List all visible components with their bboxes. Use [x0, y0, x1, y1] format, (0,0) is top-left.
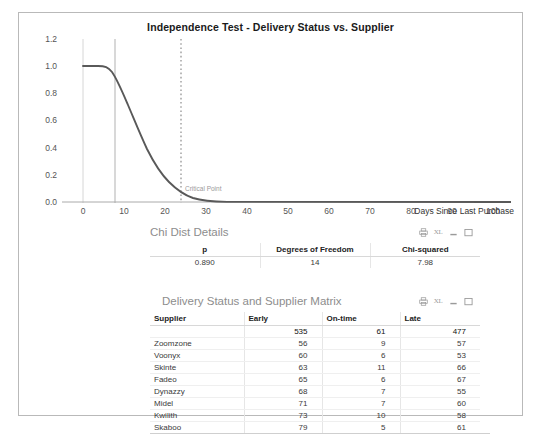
- chi-survival-curve: [83, 66, 511, 202]
- x-tick-30: 30: [201, 206, 210, 216]
- column-header-early[interactable]: Early: [244, 312, 322, 326]
- table-row: Fadeo 65 6 67: [150, 374, 480, 386]
- matrix-card-title: Delivery Status and Supplier Matrix: [162, 295, 342, 307]
- cell-total-ontime: 61: [322, 326, 400, 338]
- cell-ontime: 11: [322, 362, 400, 374]
- x-tick-60: 60: [324, 206, 333, 216]
- cell-ontime: 10: [322, 410, 400, 422]
- excel-icon[interactable]: XL: [433, 227, 443, 237]
- cell-early: 56: [244, 338, 322, 350]
- print-icon[interactable]: [418, 296, 428, 306]
- cell-early: 60: [244, 350, 322, 362]
- cell-late: 53: [400, 350, 480, 362]
- x-tick-10: 10: [119, 206, 128, 216]
- cell-late: 60: [400, 398, 480, 410]
- cell-late: 67: [400, 374, 480, 386]
- cell-p-value: 0.890: [150, 257, 260, 269]
- chi-dist-card-title: Chi Dist Details: [150, 226, 229, 238]
- cell-early: 73: [244, 410, 322, 422]
- column-header-p[interactable]: p: [150, 243, 260, 257]
- cell-total-early: 535: [244, 326, 322, 338]
- x-tick-40: 40: [242, 206, 251, 216]
- plot-svg: [62, 39, 511, 203]
- cell-ontime: 7: [322, 398, 400, 410]
- chi-distribution-chart: Independence Test - Delivery Status vs. …: [19, 13, 522, 219]
- maximize-icon[interactable]: [463, 296, 473, 306]
- cell-supplier: Voonyx: [150, 350, 244, 362]
- minimize-icon[interactable]: [448, 296, 458, 306]
- cell-ontime: 6: [322, 374, 400, 386]
- x-tick-20: 20: [160, 206, 169, 216]
- y-tick-0.4: 0.4: [45, 143, 57, 153]
- cell-early: 71: [244, 398, 322, 410]
- table-row: Dynazzy 68 7 55: [150, 386, 480, 398]
- x-tick-50: 50: [283, 206, 292, 216]
- cell-supplier: Kwilith: [150, 410, 244, 422]
- delivery-supplier-matrix-table: Supplier Early On-time Late 535 61 477 Z…: [150, 312, 480, 433]
- plot-area: 1.2 1.0 0.8 0.6 0.4 0.2 0.0 0 10 20 30 4…: [62, 39, 511, 203]
- y-tick-1.0: 1.0: [45, 61, 57, 71]
- cell-supplier: Skaboo: [150, 422, 244, 434]
- cell-supplier: Fadeo: [150, 374, 244, 386]
- cell-supplier: Midel: [150, 398, 244, 410]
- minimize-icon[interactable]: [448, 227, 458, 237]
- table-row: Skinte 63 11 66: [150, 362, 480, 374]
- y-tick-1.2: 1.2: [45, 34, 57, 44]
- cell-late: 57: [400, 338, 480, 350]
- column-header-chi-squared[interactable]: Chi-squared: [370, 243, 480, 257]
- cell-total-late: 477: [400, 326, 480, 338]
- x-axis-title: Days Since Last Purchase: [414, 206, 514, 216]
- maximize-icon[interactable]: [463, 227, 473, 237]
- cell-ontime: 9: [322, 338, 400, 350]
- chart-title: Independence Test - Delivery Status vs. …: [19, 21, 522, 33]
- report-page: Independence Test - Delivery Status vs. …: [18, 12, 523, 416]
- table-row: 0.890 14 7.98: [150, 257, 480, 269]
- delivery-supplier-matrix-card: Delivery Status and Supplier Matrix XL: [150, 295, 490, 434]
- cell-chi-squared: 7.98: [370, 257, 480, 269]
- cell-supplier: Dynazzy: [150, 386, 244, 398]
- chi-dist-table: p Degrees of Freedom Chi-squared 0.890 1…: [150, 243, 480, 268]
- y-tick-0.6: 0.6: [45, 115, 57, 125]
- chi-dist-details-card: Chi Dist Details XL p Degrees of Free: [150, 226, 490, 268]
- excel-icon[interactable]: XL: [433, 296, 443, 306]
- matrix-table-wrapper: Supplier Early On-time Late 535 61 477 Z…: [150, 312, 490, 434]
- chi-dist-card-toolbar: XL: [418, 227, 473, 237]
- cell-degrees-of-freedom: 14: [260, 257, 370, 269]
- cell-late: 58: [400, 410, 480, 422]
- cell-early: 65: [244, 374, 322, 386]
- table-row: Kwilith 73 10 58: [150, 410, 480, 422]
- cell-early: 79: [244, 422, 322, 434]
- table-row: Skaboo 79 5 61: [150, 422, 480, 434]
- cell-late: 61: [400, 422, 480, 434]
- x-tick-0: 0: [81, 206, 86, 216]
- critical-point-label: Critical Point: [185, 185, 221, 192]
- table-header-row: Supplier Early On-time Late: [150, 312, 480, 326]
- chi-dist-card-header: Chi Dist Details XL: [150, 226, 490, 243]
- cell-ontime: 5: [322, 422, 400, 434]
- y-tick-0.2: 0.2: [45, 170, 57, 180]
- cell-early: 63: [244, 362, 322, 374]
- cell-late: 66: [400, 362, 480, 374]
- totals-row: 535 61 477: [150, 326, 480, 338]
- table-row: Zoomzone 56 9 57: [150, 338, 480, 350]
- matrix-card-toolbar: XL: [418, 296, 473, 306]
- y-tick-0.8: 0.8: [45, 88, 57, 98]
- table-header-row: p Degrees of Freedom Chi-squared: [150, 243, 480, 257]
- cell-supplier: Zoomzone: [150, 338, 244, 350]
- table-row: Voonyx 60 6 53: [150, 350, 480, 362]
- column-header-late[interactable]: Late: [400, 312, 480, 326]
- column-header-on-time[interactable]: On-time: [322, 312, 400, 326]
- matrix-card-header: Delivery Status and Supplier Matrix XL: [150, 295, 490, 312]
- cell-supplier: Skinte: [150, 362, 244, 374]
- print-icon[interactable]: [418, 227, 428, 237]
- cell-ontime: 7: [322, 386, 400, 398]
- column-header-supplier[interactable]: Supplier: [150, 312, 244, 326]
- cell-ontime: 6: [322, 350, 400, 362]
- y-tick-0.0: 0.0: [45, 197, 57, 207]
- x-tick-70: 70: [365, 206, 374, 216]
- cell-early: 68: [244, 386, 322, 398]
- column-header-degrees-of-freedom[interactable]: Degrees of Freedom: [260, 243, 370, 257]
- table-row: Midel 71 7 60: [150, 398, 480, 410]
- cell-late: 55: [400, 386, 480, 398]
- cell-totals-label: [150, 326, 244, 338]
